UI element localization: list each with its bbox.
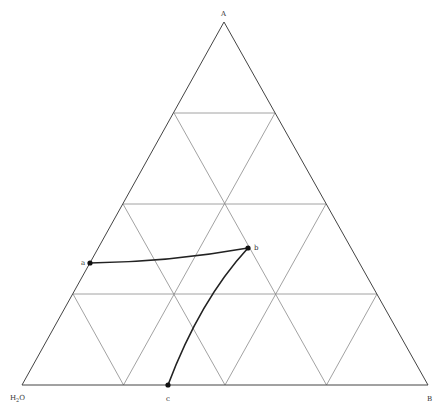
vertex-label-left: H2O <box>10 394 25 403</box>
ternary-diagram: A H2O B a b c <box>0 0 443 417</box>
point-label-c: c <box>166 395 170 403</box>
grid-lines <box>73 113 377 385</box>
vertex-label-top: A <box>220 10 227 18</box>
curve-b-c <box>168 248 248 385</box>
point-c <box>165 382 170 387</box>
point-a <box>87 260 92 265</box>
point-label-a: a <box>81 259 85 267</box>
vertex-label-right: B <box>427 395 432 403</box>
point-label-b: b <box>254 244 259 252</box>
curve-a-b <box>90 248 248 263</box>
point-b <box>245 245 250 250</box>
